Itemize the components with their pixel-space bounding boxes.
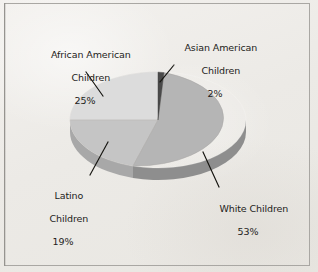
label-line-2: Children	[71, 72, 110, 83]
label-percent: 53%	[196, 226, 300, 238]
label-line-1: African American	[51, 49, 131, 60]
label-line-1: Latino	[54, 190, 83, 201]
pie-chart-figure: African American Children 25% Asian Amer…	[0, 0, 318, 272]
label-line-1: Asian American	[184, 42, 257, 53]
slice-label-african-american-children: African American Children 25%	[33, 37, 137, 129]
label-line-2: Children	[201, 65, 240, 76]
slice-label-latino-children: Latino Children 19%	[25, 178, 101, 270]
label-line-1: White Children	[219, 203, 288, 214]
label-percent: 19%	[25, 236, 101, 248]
label-line-2: Children	[49, 213, 88, 224]
label-percent: 25%	[33, 95, 137, 107]
label-percent: 2%	[167, 88, 263, 100]
slice-label-asian-american-children: Asian American Children 2%	[167, 30, 263, 122]
slice-label-white-children: White Children 53%	[196, 191, 300, 260]
